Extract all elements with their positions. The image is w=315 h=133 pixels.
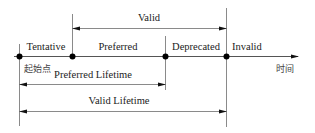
state-label-invalid: Invalid xyxy=(232,41,262,52)
state-label-deprecated: Deprecated xyxy=(172,41,221,52)
deprecated-point-dot xyxy=(163,54,169,60)
invalid-point-dot xyxy=(224,54,230,60)
preferred-lifetime-label: Preferred Lifetime xyxy=(54,69,132,80)
valid-label: Valid xyxy=(138,12,161,23)
start-point-dot xyxy=(17,54,23,60)
state-label-preferred: Preferred xyxy=(98,41,138,52)
time-axis-label: 时间 xyxy=(276,63,294,74)
start-point-label: 起始点 xyxy=(24,63,51,74)
lifetime-diagram: Valid Tentative Preferred Deprecated Inv… xyxy=(0,0,315,133)
valid-lifetime-label: Valid Lifetime xyxy=(89,95,150,106)
preferred-point-dot xyxy=(70,54,76,60)
state-label-tentative: Tentative xyxy=(27,41,66,52)
